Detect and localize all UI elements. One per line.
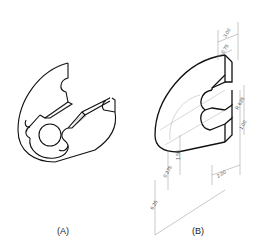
dim-3-00: 3.00 bbox=[222, 27, 232, 39]
drawing-canvas: 3.00 0.75 R.625 1.00 0.375 1.50 6.25 2.0… bbox=[0, 0, 259, 252]
figure-b-part bbox=[155, 55, 232, 152]
figure-b-dimension-lines bbox=[155, 22, 244, 235]
dim-0-375: 0.375 bbox=[162, 164, 174, 178]
dim-1-00: 1.00 bbox=[238, 119, 248, 131]
dim-1-50: 1.50 bbox=[175, 150, 181, 160]
figure-b-hidden-lines bbox=[160, 90, 225, 145]
dim-6-25: 6.25 bbox=[149, 199, 159, 211]
figure-b-caption: (B) bbox=[192, 226, 204, 236]
figure-a-part bbox=[18, 63, 116, 162]
figure-a-caption: (A) bbox=[57, 226, 69, 236]
dim-0-75: 0.75 bbox=[220, 43, 230, 55]
figure-b-dimension-labels: 3.00 0.75 R.625 1.00 0.375 1.50 6.25 2.0… bbox=[149, 27, 248, 211]
